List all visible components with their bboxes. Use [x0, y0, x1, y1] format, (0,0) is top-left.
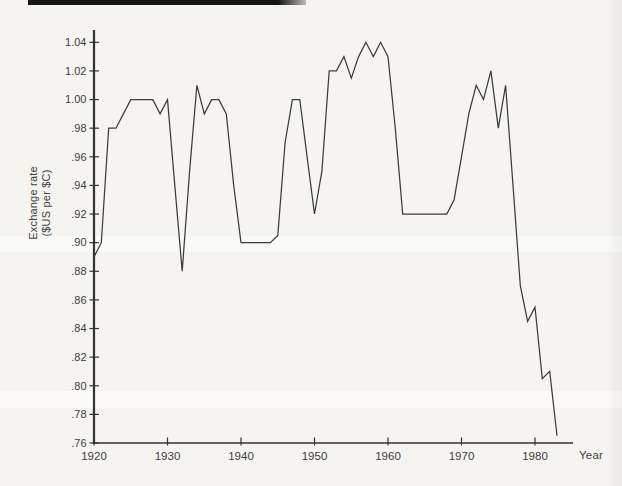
y-tick-label: .82: [71, 351, 86, 363]
x-axis-title: Year: [579, 449, 603, 461]
y-axis-title-line1: Exchange rate: [27, 166, 39, 240]
y-tick-label: .80: [71, 380, 86, 392]
x-tick-label: 1970: [449, 450, 475, 462]
exchange-rate-chart: 1.041.021.00.98.96.94.92.90.88.86.84.82.…: [0, 0, 622, 486]
y-tick-label: .92: [71, 208, 86, 220]
scanned-page: 1.041.021.00.98.96.94.92.90.88.86.84.82.…: [0, 0, 622, 486]
x-tick-label: 1940: [228, 450, 254, 462]
exchange-rate-line: [94, 42, 557, 436]
x-tick-label: 1980: [522, 450, 548, 462]
x-tick-label: 1960: [375, 450, 401, 462]
y-tick-label: .98: [71, 122, 86, 134]
y-tick-label: .78: [71, 408, 86, 420]
y-tick-label: 1.04: [65, 36, 86, 48]
x-axis-ticks: 1920193019401950196019701980: [81, 438, 548, 463]
y-tick-label: .94: [71, 179, 86, 191]
x-tick-label: 1920: [81, 450, 107, 462]
y-tick-label: .86: [71, 294, 86, 306]
y-tick-label: .88: [71, 265, 86, 277]
y-tick-label: .84: [71, 322, 86, 334]
y-tick-label: .90: [71, 236, 86, 248]
x-tick-label: 1930: [155, 450, 181, 462]
x-tick-label: 1950: [302, 450, 328, 462]
y-tick-label: .76: [71, 437, 86, 449]
y-axis-title-line2: ($US per $C): [40, 169, 52, 236]
y-tick-label: 1.00: [65, 93, 86, 105]
y-tick-label: .96: [71, 151, 86, 163]
y-tick-label: 1.02: [65, 65, 86, 77]
